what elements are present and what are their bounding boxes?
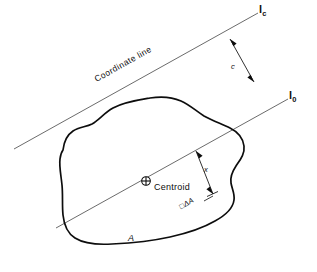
centroid-diagram: lc l0 Coordinate line Centroid c x A □ΔA: [0, 0, 317, 272]
dimension-c: [230, 39, 254, 82]
axis-lc-subscript: c: [262, 9, 266, 18]
dimension-x-label: x: [204, 166, 208, 174]
diagram-canvas: [0, 0, 317, 272]
centroid-label: Centroid: [154, 183, 190, 192]
axis-label-lc: lc: [259, 4, 267, 18]
centroid-marker: [142, 177, 151, 186]
area-label: A: [128, 234, 134, 243]
dimension-c-label: c: [231, 63, 235, 71]
axis-label-l0: l0: [289, 90, 297, 104]
area-outline: [60, 97, 244, 244]
coordinate-line-upper: [14, 13, 258, 149]
coordinate-line-lower: [56, 99, 288, 228]
axis-l0-subscript: 0: [292, 95, 296, 104]
area-element-leader: [204, 196, 213, 201]
